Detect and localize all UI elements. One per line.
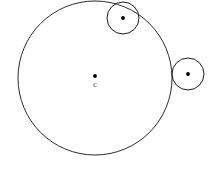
small-circle-top-center-dot — [121, 16, 125, 20]
small-circle-right-center-dot — [186, 72, 190, 76]
center-label-c: c — [93, 79, 97, 89]
circle-tangency-diagram: c — [0, 0, 219, 169]
figure-root: c — [0, 0, 219, 169]
figure-background — [0, 0, 219, 169]
large-circle-center-dot — [93, 74, 97, 78]
